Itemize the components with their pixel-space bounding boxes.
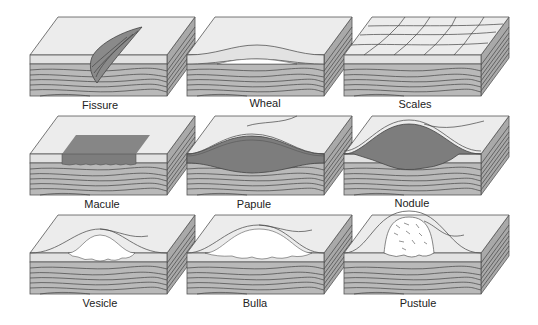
panel-fissure: [30, 17, 195, 96]
panel-macule: [30, 116, 195, 195]
label-pustule: Pustule: [358, 297, 478, 309]
label-scales: Scales: [355, 98, 475, 110]
label-macule: Macule: [42, 198, 162, 210]
label-vesicle: Vesicle: [40, 297, 160, 309]
label-bulla: Bulla: [195, 297, 315, 309]
skin-lesions-diagram: [0, 0, 538, 325]
label-nodule: Nodule: [352, 197, 472, 209]
label-papule: Papule: [194, 198, 314, 210]
panel-scales: [344, 17, 509, 96]
panel-nodule: [344, 116, 509, 195]
panel-vesicle: [30, 215, 195, 294]
label-fissure: Fissure: [40, 99, 160, 111]
macule-lesion: [62, 135, 150, 154]
panel-papule: [187, 116, 352, 195]
panel-pustule: [344, 211, 509, 294]
label-wheal: Wheal: [205, 97, 325, 109]
panel-wheal: [187, 17, 352, 96]
panel-bulla: [187, 215, 352, 294]
